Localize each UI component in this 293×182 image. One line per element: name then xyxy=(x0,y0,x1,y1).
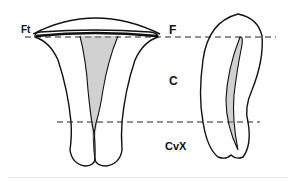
tube-rim xyxy=(36,33,157,36)
label-cervix: CvX xyxy=(165,140,186,152)
uterine-cavity-hatched xyxy=(80,36,118,160)
bottom-rule xyxy=(8,177,288,178)
label-fallopian-tube: Ft xyxy=(21,24,30,36)
label-fundus: F xyxy=(169,24,176,36)
label-corpus: C xyxy=(169,75,178,87)
uterus-diagram xyxy=(0,0,293,182)
sagittal-cavity-hatched xyxy=(226,37,242,150)
